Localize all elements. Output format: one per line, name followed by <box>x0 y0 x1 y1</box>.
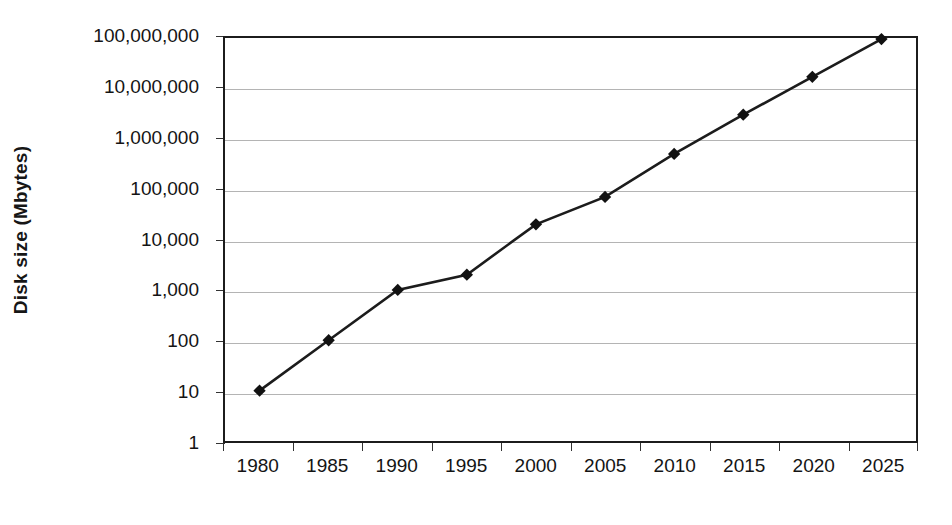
x-axis-tick-label: 2000 <box>515 455 557 477</box>
x-axis-tick <box>362 443 363 451</box>
y-axis-tick-labels: 100,000,00010,000,0001,000,000100,00010,… <box>44 36 211 443</box>
x-axis-tick-label: 1980 <box>237 455 279 477</box>
y-axis-tick-label: 1 <box>188 432 199 454</box>
x-axis-tick-label: 2020 <box>793 455 835 477</box>
x-axis-tick <box>223 443 224 451</box>
series-line-disk-size <box>260 39 882 391</box>
x-axis-tick-label: 2015 <box>723 455 765 477</box>
y-axis-tick-label: 10,000 <box>141 229 199 251</box>
data-point-marker <box>599 191 611 203</box>
y-axis-tick-label: 10 <box>178 381 199 403</box>
x-axis-tick-label: 2025 <box>862 455 904 477</box>
x-axis-tick <box>779 443 780 451</box>
y-axis-tick-label: 100,000 <box>130 178 199 200</box>
data-point-marker <box>806 71 818 83</box>
x-axis-tick <box>710 443 711 451</box>
x-axis-tick <box>571 443 572 451</box>
y-axis-tick-label: 100,000,000 <box>93 25 199 47</box>
x-axis-tick <box>293 443 294 451</box>
data-series-line <box>225 38 916 441</box>
x-axis-tick-label: 1990 <box>376 455 418 477</box>
data-point-marker <box>875 33 887 45</box>
disk-size-growth-chart: Disk size (Mbytes) 100,000,00010,000,000… <box>0 0 952 525</box>
plot-area <box>223 36 918 443</box>
x-axis-tick-label: 1985 <box>306 455 348 477</box>
x-axis-tick-label: 2010 <box>654 455 696 477</box>
x-axis-tick-labels: 1980198519901995200020052010201520202025 <box>223 455 918 485</box>
data-point-marker <box>737 109 749 121</box>
y-axis-tick-label: 1,000 <box>151 279 199 301</box>
data-point-marker <box>668 148 680 160</box>
x-axis-tick-label: 1995 <box>445 455 487 477</box>
x-axis-tick-label: 2005 <box>584 455 626 477</box>
y-axis-title: Disk size (Mbytes) <box>0 0 42 460</box>
y-axis-tick-label: 10,000,000 <box>104 76 199 98</box>
y-axis-title-label: Disk size (Mbytes) <box>10 146 32 314</box>
y-axis-tick-label: 100 <box>167 330 199 352</box>
x-axis-tick <box>640 443 641 451</box>
y-axis-tick-label: 1,000,000 <box>114 127 199 149</box>
x-axis-tick <box>849 443 850 451</box>
x-axis-ticks <box>223 443 918 452</box>
x-axis-tick <box>501 443 502 451</box>
x-axis-tick <box>432 443 433 451</box>
x-axis-tick <box>917 443 918 451</box>
